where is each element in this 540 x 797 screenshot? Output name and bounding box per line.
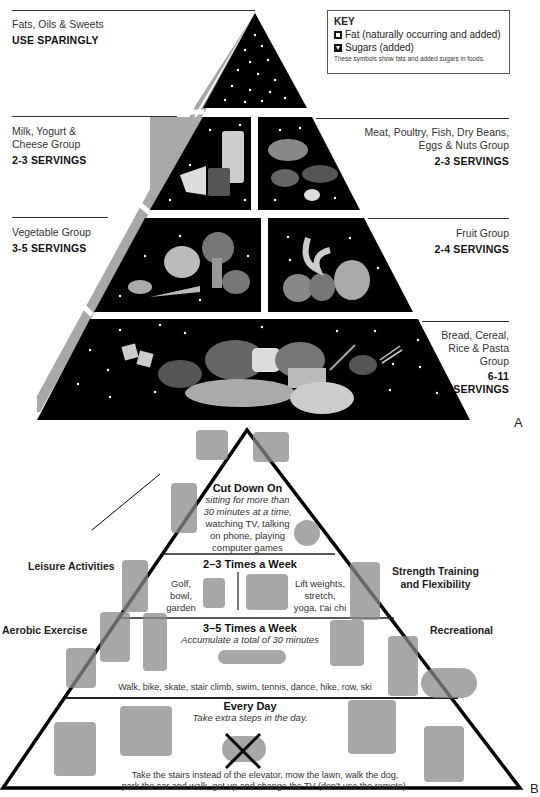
tier-heading: Cut Down On [180,482,315,494]
label-line: and Flexibility [392,578,479,591]
tier-cut-down-on: Cut Down On sitting for more than 30 min… [180,482,315,554]
servings-text: 2-4 SERVINGS [434,243,509,256]
divider-rule [12,116,177,117]
fat-symbol-icon [334,31,342,39]
gardener-illustration [203,578,225,608]
tier-2-3-times: 2–3 Times a Week [180,558,320,570]
strength-activity-list: Lift weights, stretch, yoga, t'ai chi [290,578,350,614]
tier-subheading: sitting for more than [180,494,315,506]
walking-person-illustration [424,726,464,782]
key-item-sugar: Sugars (added) [334,41,503,54]
label-recreational: Recreational [430,624,493,637]
group-name: Vegetable Group [12,226,91,238]
swimmer-illustration [218,650,286,664]
dog-walking-illustration [348,700,396,754]
aerobic-activity-list: Walk, bike, skate, stair climb, swim, te… [100,681,390,693]
activity-item: stretch, [290,590,350,602]
tier-body-line: watching TV, talking [180,518,315,530]
label-bread-group: Bread, Cereal, Rice & Pasta Group 6-11 S… [441,329,509,396]
tier-body-line: on phone, playing [180,530,315,542]
tier-subheading: 30 minutes at a time, [180,506,315,518]
figure-label-b: B [530,781,539,796]
leisure-activity-list: Golf, bowl, garden [160,578,202,614]
group-name: Rice & Pasta [448,342,509,354]
hiker-illustration [388,636,418,696]
everyday-activity-list: Take the stairs instead of the elevator,… [100,770,430,792]
servings-text: 3-5 SERVINGS [12,242,91,255]
tier-body-line: Take the stairs instead of the elevator,… [100,770,430,781]
label-vegetable-group: Vegetable Group 3-5 SERVINGS [12,226,91,255]
group-name: Eggs & Nuts Group [419,139,509,151]
divider-rule [316,118,509,119]
remote-crossed-out-illustration [222,736,266,762]
group-name: Meat, Poultry, Fish, Dry Beans, [364,126,509,138]
group-name: Bread, Cereal, [441,329,509,341]
activity-item: yoga, t'ai chi [290,602,350,614]
tier-body-line: computer games [180,542,315,554]
servings-text: USE SPARINGLY [12,34,104,47]
weightlifter-illustration [350,562,380,620]
servings-text: 2-3 SERVINGS [364,155,509,168]
activity-item: garden [160,602,202,614]
cyclist-illustration [421,668,477,698]
tv-watching-illustration [196,430,228,460]
yoga-group-illustration [246,574,288,610]
group-name: Group [480,355,509,367]
tier-subheading: Take extra steps in the day. [180,712,320,724]
key-note: These symbols show fats and added sugars… [334,54,503,64]
group-name: Fruit Group [456,227,509,239]
stairs-walking-illustration [120,706,172,756]
group-name: Fats, Oils & Sweets [12,18,104,30]
golfer-illustration [122,560,148,612]
divider-rule [368,218,509,219]
divider-rule [422,321,509,322]
servings-text: SERVINGS [441,383,509,396]
label-fats-oils-sweets: Fats, Oils & Sweets USE SPARINGLY [12,18,104,47]
tier-subheading: Accumulate a total of 30 minutes [160,634,340,646]
key-legend: KEY Fat (naturally occurring and added) … [327,10,510,74]
servings-text: 6-11 [441,370,509,383]
servings-text: 2-3 SERVINGS [12,154,87,167]
group-name: Milk, Yogurt & [12,125,76,137]
activity-item: Lift weights, [290,578,350,590]
label-strength-training: Strength Training and Flexibility [392,565,479,591]
divider-rule [12,217,108,218]
label-milk-group: Milk, Yogurt & Cheese Group 2-3 SERVINGS [12,125,87,167]
activity-item: Golf, [160,578,202,590]
key-item-label: Fat (naturally occurring and added) [345,28,501,41]
tier-heading: 3–5 Times a Week [160,622,340,634]
sugar-symbol-icon [334,44,342,52]
divider-rule [12,10,255,11]
key-item-fat: Fat (naturally occurring and added) [334,28,503,41]
figure-label-a: A [514,415,523,430]
key-item-label: Sugars (added) [345,41,414,54]
exercise-bike-illustration [66,648,96,688]
activity-item: bowl, [160,590,202,602]
label-line: Strength Training [392,565,479,578]
label-fruit-group: Fruit Group 2-4 SERVINGS [434,227,509,256]
label-meat-group: Meat, Poultry, Fish, Dry Beans, Eggs & N… [364,126,509,168]
tier-heading: Every Day [180,700,320,712]
lawn-mower-illustration [54,722,96,776]
label-leisure-activities: Leisure Activities [28,560,115,573]
basketball-player-illustration [100,612,130,662]
tier-3-5-times: 3–5 Times a Week Accumulate a total of 3… [160,622,340,646]
tier-fats-oils-sweets [203,13,307,108]
tier-every-day: Every Day Take extra steps in the day. [180,700,320,724]
tier-heading: 2–3 Times a Week [180,558,320,570]
group-name: Cheese Group [12,138,80,150]
tier-body-line: park the car and walk, get up and change… [100,781,430,792]
label-aerobic-exercise: Aerobic Exercise [2,624,87,637]
key-title: KEY [334,15,503,28]
sitting-people-illustration [253,432,289,462]
